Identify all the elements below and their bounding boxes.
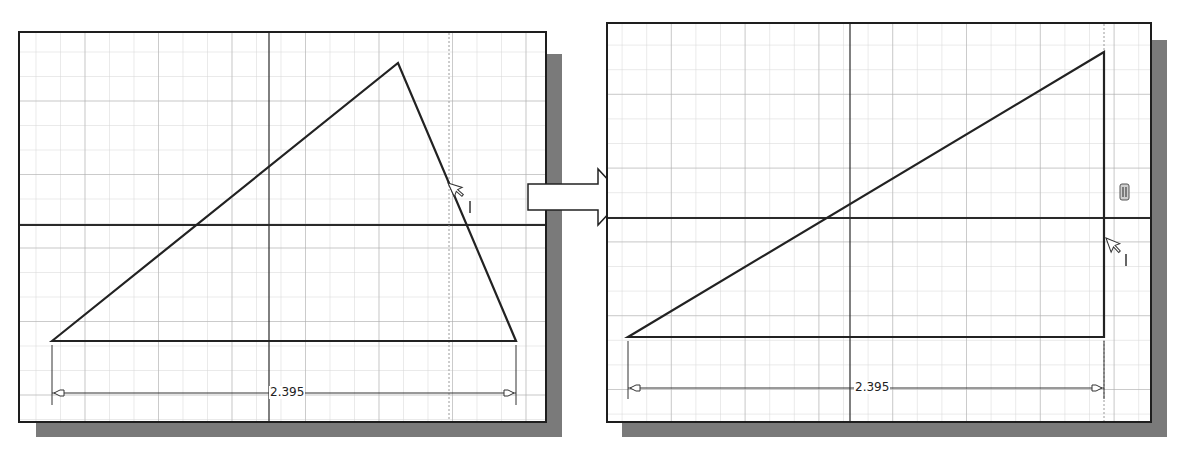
dimension-value[interactable]: 2.395 (269, 386, 305, 399)
left-sketch-drawing (20, 33, 547, 423)
vertical-constraint-icon[interactable] (1120, 184, 1129, 200)
left-sketch-canvas[interactable]: 2.395 (18, 31, 547, 423)
right-sketch-drawing (608, 24, 1152, 423)
dimension-value[interactable]: 2.395 (854, 381, 890, 394)
grid-major (608, 24, 1152, 423)
right-sketch-canvas[interactable]: 2.395 (606, 22, 1152, 423)
